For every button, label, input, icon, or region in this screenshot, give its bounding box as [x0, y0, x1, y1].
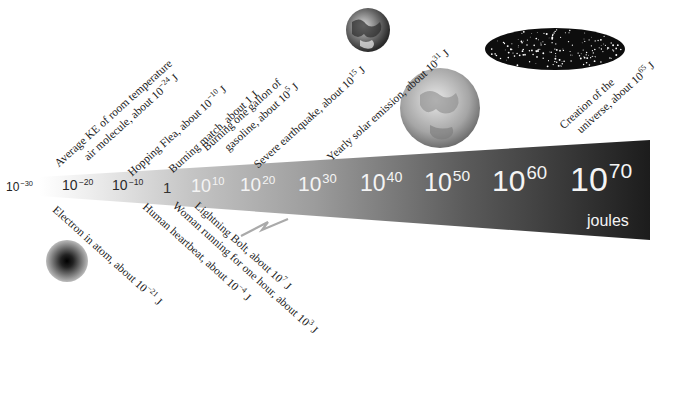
universe-icon — [485, 28, 625, 70]
unit-label: joules — [587, 213, 629, 229]
tick-1e-10: 10−10 — [112, 178, 143, 192]
tick-1e10: 1010 — [191, 176, 224, 195]
energy-scale-diagram: 10−30 10−20 10−10 1 1010 1020 1030 1040 … — [0, 0, 677, 393]
tick-1e50: 1050 — [424, 168, 470, 195]
tick-1: 1 — [163, 180, 171, 195]
tick-1e30: 1030 — [298, 172, 337, 194]
tick-1e-30: 10−30 — [6, 180, 33, 193]
lightning-bolt-icon — [241, 219, 288, 236]
tick-1e-20: 10−20 — [62, 178, 93, 192]
tick-1e60: 1060 — [492, 164, 547, 196]
tick-1e70: 1070 — [570, 160, 632, 196]
electron-icon — [46, 240, 88, 282]
earth-icon — [346, 8, 390, 52]
tick-1e40: 1040 — [360, 170, 402, 195]
tick-1e20: 1020 — [240, 174, 275, 194]
